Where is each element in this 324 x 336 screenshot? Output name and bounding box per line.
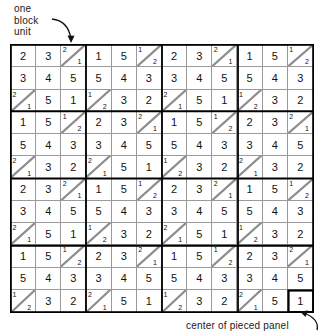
- grid-cell-r8-c12: 3: [288, 201, 313, 223]
- cell-value-lower: 2: [305, 191, 309, 200]
- cell-value: 3: [263, 156, 287, 177]
- grid-cell-r12-c1: 12: [11, 290, 36, 312]
- cell-value-lower: 2: [153, 57, 157, 66]
- grid-cell-r12-c10: 21: [237, 290, 262, 312]
- grid-cell-r1-c4: 1: [86, 45, 111, 67]
- grid-cell-r7-c9: 21: [212, 179, 237, 201]
- cell-value: 5: [187, 90, 211, 111]
- grid-cell-r8-c4: 5: [86, 201, 111, 223]
- grid-cell-r7-c8: 3: [187, 179, 212, 201]
- grid-cell-r9-c6: 2: [137, 223, 162, 245]
- grid-cell-r8-c10: 5: [237, 201, 262, 223]
- cell-value: 1: [212, 223, 236, 244]
- cell-value: 3: [162, 67, 186, 88]
- grid-cell-r11-c3: 3: [61, 268, 86, 290]
- cell-value: 5: [263, 290, 287, 312]
- grid-cell-r2-c1: 3: [11, 67, 36, 89]
- cell-value: 3: [36, 179, 60, 200]
- cell-value: 4: [187, 134, 211, 155]
- cell-value: 4: [112, 67, 136, 88]
- grid-cell-r7-c3: 21: [61, 179, 86, 201]
- cell-value-lower: 1: [103, 169, 107, 178]
- grid-cell-r1-c10: 1: [237, 45, 262, 67]
- cell-value: 1: [86, 179, 110, 200]
- cell-value: 2: [86, 112, 110, 133]
- grid-cell-r9-c9: 1: [212, 223, 237, 245]
- cell-value: 1: [86, 45, 110, 66]
- grid-cell-r11-c1: 5: [11, 268, 36, 290]
- cell-value: 3: [263, 245, 287, 266]
- cell-value-lower: 2: [254, 235, 258, 244]
- grid-cell-r2-c4: 5: [86, 67, 111, 89]
- grid-cell-r12-c2: 3: [36, 290, 61, 312]
- cell-value: 5: [112, 290, 136, 312]
- cell-value: 2: [288, 223, 313, 244]
- grid-cell-r4-c8: 5: [187, 112, 212, 134]
- grid-cell-r2-c12: 3: [288, 67, 313, 89]
- cell-value-lower: 1: [27, 102, 31, 111]
- cell-value-lower: 2: [27, 303, 31, 312]
- grid-cell-r8-c5: 4: [112, 201, 137, 223]
- grid-cell-r6-c6: 1: [137, 156, 162, 178]
- cell-value: 2: [137, 223, 161, 244]
- cell-value-upper: 2: [88, 290, 92, 299]
- cell-value: 4: [187, 201, 211, 222]
- cell-value-upper: 1: [163, 290, 167, 299]
- grid-cell-r10-c2: 5: [36, 245, 61, 267]
- cell-value-upper: 1: [88, 90, 92, 99]
- grid-cell-r3-c10: 12: [237, 90, 262, 112]
- quilt-grid: 2321151223211512345543345543215112322151…: [10, 44, 314, 313]
- grid-cell-r3-c11: 3: [263, 90, 288, 112]
- cell-value: 1: [137, 290, 161, 312]
- cell-value: 4: [263, 67, 287, 88]
- cell-value-lower: 2: [78, 124, 82, 133]
- grid-cell-r9-c5: 3: [112, 223, 137, 245]
- grid-cell-r8-c2: 4: [36, 201, 61, 223]
- cell-value-upper: 2: [214, 179, 218, 188]
- cell-value: 3: [112, 90, 136, 111]
- grid-cell-r6-c4: 21: [86, 156, 111, 178]
- cell-value: 5: [11, 268, 35, 289]
- grid-cell-r5-c6: 5: [137, 134, 162, 156]
- grid-cell-r6-c11: 3: [263, 156, 288, 178]
- grid-cell-r6-c5: 5: [112, 156, 137, 178]
- cell-value-lower: 1: [153, 258, 157, 267]
- grid-cell-r8-c11: 4: [263, 201, 288, 223]
- cell-value: 5: [86, 201, 110, 222]
- cell-value: 3: [11, 67, 35, 88]
- grid-cell-r5-c8: 4: [187, 134, 212, 156]
- cell-value-lower: 1: [78, 191, 82, 200]
- cell-value-upper: 2: [289, 112, 293, 121]
- cell-value: 3: [86, 134, 110, 155]
- grid-cell-r1-c5: 5: [112, 45, 137, 67]
- cell-value: 1: [137, 156, 161, 177]
- grid-cell-r3-c7: 21: [162, 90, 187, 112]
- cell-value: 5: [288, 134, 313, 155]
- cell-value-lower: 1: [78, 57, 82, 66]
- cell-value: 3: [36, 156, 60, 177]
- cell-value: 5: [187, 112, 211, 133]
- cell-value-upper: 1: [289, 179, 293, 188]
- grid-cell-r3-c4: 12: [86, 90, 111, 112]
- grid-cell-r3-c6: 2: [137, 90, 162, 112]
- center-of-pieced-panel-label: center of pieced panel: [186, 320, 289, 331]
- grid-cell-r1-c3: 21: [61, 45, 86, 67]
- grid-cell-r3-c12: 2: [288, 90, 313, 112]
- grid-cell-r4-c6: 21: [137, 112, 162, 134]
- cell-value: 3: [187, 179, 211, 200]
- cell-value: 4: [36, 67, 60, 88]
- curved-arrow-up-right-icon: [296, 306, 322, 332]
- cell-value: 4: [263, 268, 287, 289]
- cell-value: 1: [162, 245, 186, 266]
- grid-cell-r6-c10: 21: [237, 156, 262, 178]
- cell-value: 3: [162, 201, 186, 222]
- cell-value-upper: 2: [13, 156, 17, 165]
- grid-cell-r1-c11: 5: [263, 45, 288, 67]
- cell-value: 5: [162, 268, 186, 289]
- grid-cell-r4-c11: 3: [263, 112, 288, 134]
- grid-cell-r9-c4: 12: [86, 223, 111, 245]
- cell-value: 5: [162, 134, 186, 155]
- grid-cell-r10-c7: 1: [162, 245, 187, 267]
- cell-value: 4: [112, 201, 136, 222]
- grid-cell-r7-c7: 2: [162, 179, 187, 201]
